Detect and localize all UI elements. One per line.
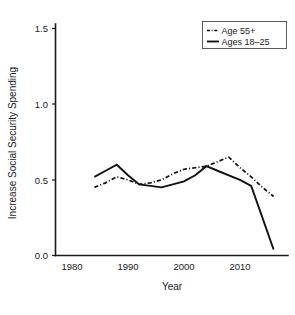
legend-label-ages-18-25: Ages 18–25 [222,37,270,47]
x-tick-label-1990: 1990 [117,261,138,272]
y-axis-ticks: 0.0 0.5 1.0 1.5 [35,23,56,261]
line-chart-canvas: 0.0 0.5 1.0 1.5 1980 1990 2000 2010 Year… [0,0,295,315]
y-tick-label-2: 1.0 [35,99,48,110]
y-tick-label-1: 0.5 [35,175,48,186]
x-tick-label-2000: 2000 [173,261,194,272]
y-tick-label-3: 1.5 [35,23,48,34]
x-axis-title: Year [162,281,183,292]
axes [56,24,289,256]
x-axis-ticks: 1980 1990 2000 2010 [61,261,250,272]
y-tick-label-0: 0.0 [35,250,48,261]
y-axis-title: Increase Social Security Spending [7,67,18,219]
chart-figure: 0.0 0.5 1.0 1.5 1980 1990 2000 2010 Year… [0,0,295,315]
series-line-age-55-plus [94,157,273,196]
legend-label-age-55-plus: Age 55+ [222,26,256,36]
x-tick-label-1980: 1980 [61,261,82,272]
x-tick-label-2010: 2010 [229,261,250,272]
chart-legend: Age 55+ Ages 18–25 [203,22,287,49]
data-series-group [94,157,273,249]
